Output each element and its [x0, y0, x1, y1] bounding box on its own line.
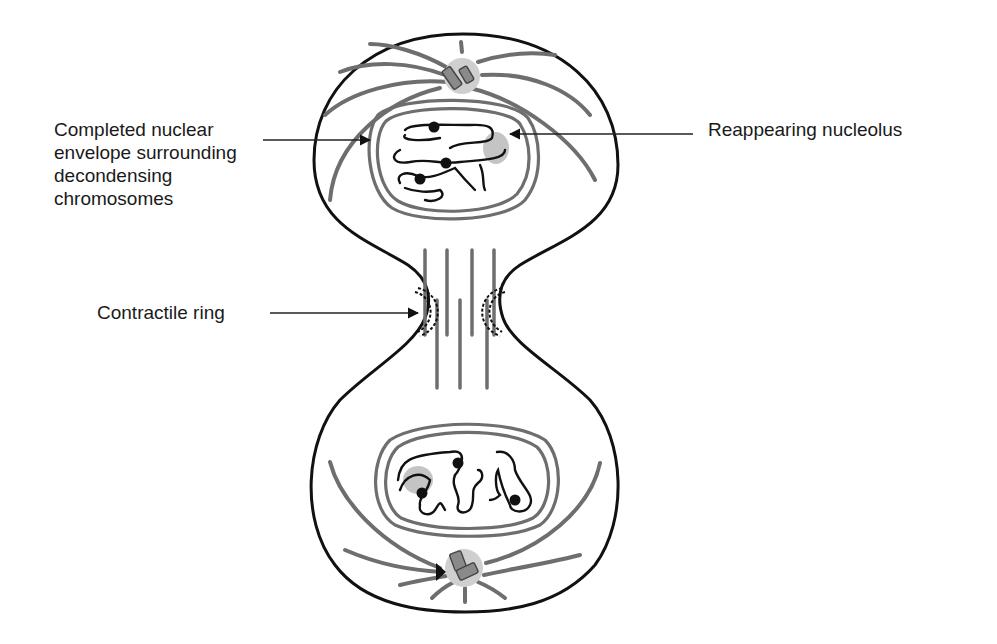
- label-line: Completed nuclear: [54, 118, 237, 141]
- label-line: envelope surrounding: [54, 141, 237, 164]
- bottom-centrosome: [445, 549, 483, 587]
- bottom-nuclear-envelope: [376, 424, 559, 536]
- label-contractile-ring: Contractile ring: [97, 301, 225, 324]
- top-chromosomes: [394, 122, 505, 201]
- cell-membrane: [311, 34, 618, 612]
- label-nuclear-envelope: Completed nuclear envelope surrounding d…: [54, 118, 237, 210]
- label-line: decondensing: [54, 164, 237, 187]
- top-centrosome: [442, 58, 480, 94]
- label-line: chromosomes: [54, 187, 237, 210]
- label-nucleolus: Reappearing nucleolus: [708, 118, 902, 141]
